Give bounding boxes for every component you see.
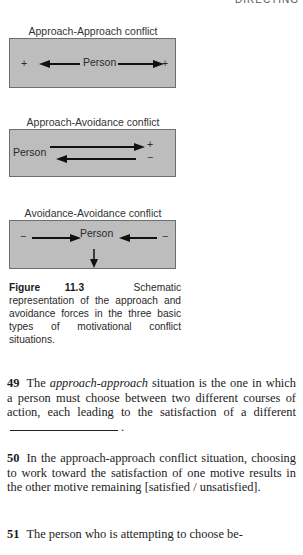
item-text: The <box>26 376 49 390</box>
panel-title-avoidance-avoidance: Avoidance-Avoidance conflict <box>9 207 177 219</box>
person-label: Person <box>80 227 113 239</box>
item-number: 51 <box>7 527 19 541</box>
panel-approach-avoidance: Person + − <box>9 129 176 177</box>
item-text: In the approach-approach conflict situat… <box>7 451 296 494</box>
figure-label: Figure 11.3 <box>9 282 84 293</box>
answer-blank[interactable] <box>10 420 118 431</box>
plus-sign: + <box>162 57 168 69</box>
panel-avoidance-avoidance: − Person − <box>9 220 176 269</box>
person-label: Person <box>13 146 46 158</box>
panel-title-approach-approach: Approach-Approach conflict <box>9 25 177 37</box>
plus-sign: + <box>21 57 27 69</box>
minus-sign: − <box>162 230 168 242</box>
person-label: Person <box>83 56 116 68</box>
minus-sign: − <box>147 151 153 163</box>
figure-caption: Figure 11.3 Schematic representation of … <box>9 281 181 346</box>
frame-item-49: 49The approach-approach situation is the… <box>7 376 296 434</box>
frame-item-50: 50In the approach-approach conflict situ… <box>7 451 296 495</box>
plus-sign: + <box>147 138 153 150</box>
minus-sign: − <box>20 230 26 242</box>
running-head: DIRECTING <box>235 0 299 5</box>
item-number: 49 <box>7 376 19 390</box>
panel-title-approach-avoidance: Approach-Avoidance conflict <box>9 116 177 128</box>
item-number: 50 <box>7 451 19 465</box>
frame-item-51: 51The person who is attempting to choose… <box>7 527 296 542</box>
panel-approach-approach: + Person + <box>9 38 176 88</box>
item-text: . <box>121 420 124 434</box>
item-text: The person who is attempting to choose b… <box>26 527 242 541</box>
item-term: approach-approach <box>50 376 148 390</box>
